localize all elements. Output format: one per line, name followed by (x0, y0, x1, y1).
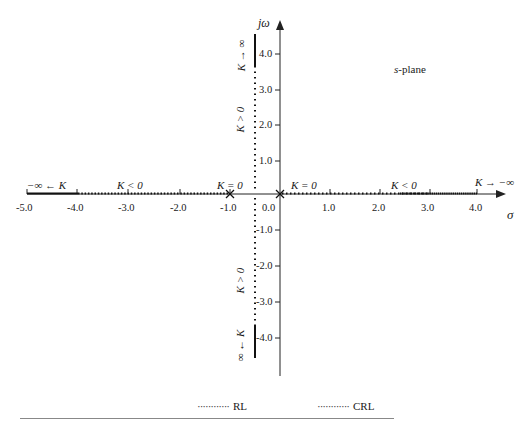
dotted-line-icon: ············ (197, 400, 229, 412)
x-tick-label: 0.0 (262, 203, 275, 214)
x-tick-label: 2.0 (372, 203, 385, 214)
x-tick-label: -5.0 (16, 203, 33, 214)
right-region-annotation: K < 0 (391, 180, 417, 191)
x-axis-label: σ (507, 208, 513, 221)
y-axis-label: jω (258, 17, 270, 29)
x-tick-label: 3.0 (421, 203, 434, 214)
x-tick-label: -4.0 (67, 203, 84, 214)
y-tick-label: 3.0 (259, 85, 272, 96)
x-tick-label: 1.0 (322, 203, 335, 214)
right-end-annotation: K → −∞ (475, 177, 514, 188)
lower-end-annotation: ∞ ← K (235, 328, 246, 364)
imaginary-axis-arrow-icon (276, 20, 284, 30)
legend-label: CRL (353, 400, 374, 412)
y-tick-label: -1.0 (256, 225, 273, 236)
real-axis-arrow-icon (496, 190, 506, 198)
legend-label: RL (233, 400, 247, 412)
y-tick-label: 1.0 (259, 156, 272, 167)
upper-branch-annotation: K > 0 (235, 102, 246, 138)
right-pole-annotation: K = 0 (291, 180, 317, 191)
x-tick-label: -1.0 (220, 203, 237, 214)
upper-end-annotation: K → ∞ (236, 38, 247, 74)
y-tick-label: -4.0 (256, 333, 273, 344)
y-tick-label: -2.0 (256, 261, 273, 272)
lower-branch-annotation: K > 0 (235, 263, 246, 299)
dotted-line-icon: ············ (317, 400, 349, 412)
s-plane-title: s-plane (394, 64, 426, 75)
x-tick-label: -3.0 (118, 203, 135, 214)
y-tick-label: 2.0 (259, 120, 272, 131)
y-tick-label: 4.0 (259, 49, 272, 60)
s-plane-diagram (0, 0, 528, 430)
legend-item-rl: ············RL (197, 400, 247, 412)
x-tick-label: 4.0 (469, 203, 482, 214)
y-tick-label: -3.0 (256, 297, 273, 308)
x-tick-label: -2.0 (170, 203, 187, 214)
legend-item-crl: ············CRL (317, 400, 374, 412)
left-end-annotation: −∞ ← K (27, 180, 66, 191)
left-region-annotation: K < 0 (117, 180, 143, 191)
left-pole-annotation: K = 0 (217, 180, 243, 191)
bottom-divider (20, 418, 394, 419)
